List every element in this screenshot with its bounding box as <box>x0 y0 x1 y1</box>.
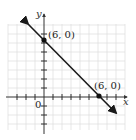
y-intercept-label: (6, 0) <box>48 29 75 40</box>
coordinate-plane: (6, 0) (6, 0) y x 0 <box>0 0 136 140</box>
x-intercept-point <box>96 93 101 98</box>
x-intercept-label: (6, 0) <box>94 80 121 91</box>
y-axis-label: y <box>35 8 42 19</box>
origin-label: 0 <box>35 99 41 110</box>
x-axis-label: x <box>123 96 129 107</box>
y-intercept-point <box>41 37 46 42</box>
